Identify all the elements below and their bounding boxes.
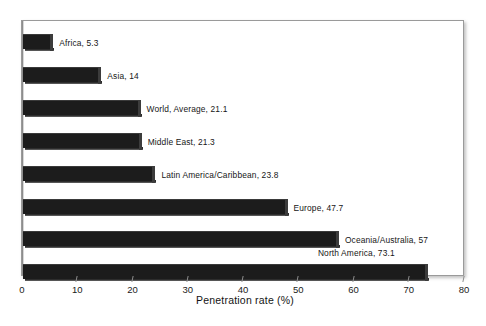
bar-value-label: World, Average, 21.1 — [147, 104, 228, 114]
bar-row — [23, 34, 55, 51]
bar-value-label: North America, 73.1 — [318, 248, 395, 258]
bar — [23, 34, 52, 49]
bar — [23, 231, 338, 246]
bar-end-cap — [425, 264, 428, 281]
bar-value-label: Oceania/Australia, 57 — [345, 235, 428, 245]
bar — [23, 264, 427, 279]
bar-end-cap — [139, 133, 142, 150]
bar — [23, 133, 141, 148]
bar-value-label: Middle East, 21.3 — [148, 137, 215, 147]
bar-chart-figure: Africa, 5.3Asia, 14World, Average, 21.1M… — [0, 0, 486, 326]
bar-end-cap — [50, 34, 53, 51]
cropped-caption — [18, 318, 318, 326]
bar-row — [23, 67, 103, 84]
x-axis-title-text: Penetration rate (%) — [196, 294, 294, 306]
bar-row — [23, 133, 144, 150]
x-axis-tick — [462, 276, 464, 282]
x-axis: 01020304050607080 — [21, 276, 464, 277]
bar-row — [23, 231, 341, 248]
bar-row — [23, 100, 143, 117]
bar-end-cap — [98, 67, 101, 84]
bar-row — [23, 166, 157, 183]
bar-value-label: Asia, 14 — [107, 71, 138, 81]
bar-end-cap — [336, 231, 339, 248]
bar — [23, 67, 100, 82]
bar-value-label: Latin America/Caribbean, 23.8 — [161, 170, 278, 180]
bar — [23, 166, 154, 181]
bar-row — [23, 264, 430, 281]
bar — [23, 199, 287, 214]
bar-value-label: Europe, 47.7 — [294, 203, 344, 213]
bar-end-cap — [285, 199, 288, 216]
plot-area: Africa, 5.3Asia, 14World, Average, 21.1M… — [21, 20, 464, 276]
bar-end-cap — [152, 166, 155, 183]
bar-end-cap — [138, 100, 141, 117]
bar-value-label: Africa, 5.3 — [59, 38, 98, 48]
bar-row — [23, 199, 290, 216]
x-axis-title: Penetration rate (%) — [0, 294, 486, 306]
bar — [23, 100, 140, 115]
